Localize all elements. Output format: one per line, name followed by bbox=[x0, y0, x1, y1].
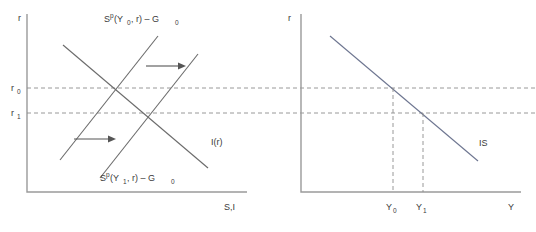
right-y-axis-label: r bbox=[288, 13, 291, 23]
right-tick-y0-base: Y bbox=[386, 202, 392, 212]
left-tick-r0: r 0 bbox=[11, 83, 21, 95]
saving-curve-shifted bbox=[100, 54, 198, 178]
left-tick-r1: r 1 bbox=[11, 108, 21, 120]
investment-curve-label: I(r) bbox=[211, 137, 223, 147]
economics-diagram-figure: r r 0 r 1 S,I S p (Y 0 , r) – G 0 bbox=[0, 0, 536, 232]
shift-arrow-lower bbox=[74, 136, 116, 143]
left-x-axis-label: S,I bbox=[224, 202, 235, 212]
investment-curve bbox=[63, 45, 208, 168]
is-curve bbox=[330, 36, 478, 161]
is-curve-label: IS bbox=[479, 138, 488, 148]
left-tick-r0-subscript: 0 bbox=[17, 88, 21, 95]
right-tick-y0: Y 0 bbox=[386, 202, 397, 214]
saving-curve-initial-label: S p (Y 0 , r) – G 0 bbox=[104, 12, 179, 26]
right-panel-axes bbox=[301, 14, 521, 192]
saving-shifted-mid: , r) – G bbox=[127, 173, 155, 183]
right-tick-y1: Y 1 bbox=[416, 202, 427, 214]
left-panel-axes bbox=[27, 14, 247, 192]
right-tick-y0-subscript: 0 bbox=[393, 207, 397, 214]
left-panel-loanable-funds: r r 0 r 1 S,I S p (Y 0 , r) – G 0 bbox=[11, 12, 536, 212]
saving-initial-mid: , r) – G bbox=[131, 14, 159, 24]
diagram-canvas: r r 0 r 1 S,I S p (Y 0 , r) – G 0 bbox=[0, 0, 536, 232]
saving-initial-end-subscript: 0 bbox=[175, 19, 179, 26]
saving-initial-open: (Y bbox=[114, 14, 123, 24]
right-tick-y1-base: Y bbox=[416, 202, 422, 212]
saving-shifted-end-subscript: 0 bbox=[171, 178, 175, 185]
left-tick-r1-base: r bbox=[11, 108, 14, 118]
left-y-axis-label: r bbox=[18, 13, 21, 23]
shift-arrow-upper bbox=[146, 63, 186, 70]
right-x-axis-label: Y bbox=[508, 202, 514, 212]
left-tick-r1-subscript: 1 bbox=[17, 113, 21, 120]
saving-shifted-open: (Y bbox=[110, 173, 119, 183]
right-tick-y1-subscript: 1 bbox=[423, 207, 427, 214]
left-tick-r0-base: r bbox=[11, 83, 14, 93]
saving-curve-shifted-label: S p (Y 1 , r) – G 0 bbox=[100, 171, 175, 185]
